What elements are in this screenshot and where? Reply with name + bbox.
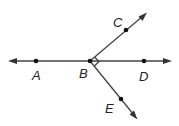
- point-d: [142, 59, 147, 64]
- geometry-diagram: A B C D E: [0, 0, 179, 126]
- point-a: [34, 59, 39, 64]
- arrowhead-left-icon: [8, 58, 17, 64]
- label-d: D: [139, 69, 148, 84]
- label-e: E: [105, 101, 114, 116]
- label-b: B: [79, 66, 88, 81]
- label-c: C: [113, 15, 123, 30]
- arrowhead-right-icon: [163, 58, 172, 64]
- point-e: [119, 97, 124, 102]
- point-b: [88, 59, 93, 64]
- arrowhead-c-icon: [139, 13, 148, 22]
- point-c: [124, 28, 129, 33]
- label-a: A: [31, 68, 41, 83]
